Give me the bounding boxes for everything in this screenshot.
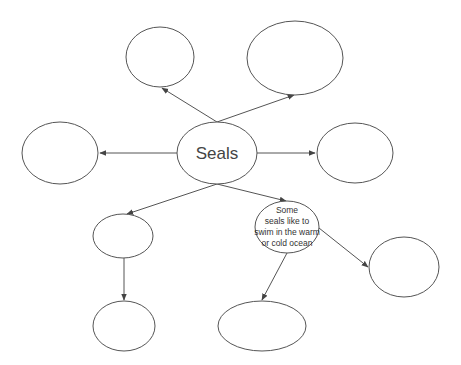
node-mid-left[interactable]	[93, 214, 153, 258]
node-far-right[interactable]	[369, 237, 439, 297]
node-left[interactable]	[22, 122, 98, 184]
node-swim-label-line-2: seals like to	[265, 216, 310, 226]
edge-seals-mid-left	[127, 184, 217, 214]
node-swim-label-line-4: or cold ocean	[261, 238, 312, 248]
edge-swim-bottom-mid	[262, 253, 287, 300]
node-right[interactable]	[317, 123, 393, 183]
edge-seals-swim	[217, 184, 286, 201]
edge-seals-top-right	[217, 95, 294, 122]
edges	[100, 88, 368, 300]
node-seals-label: Seals	[196, 144, 239, 163]
edge-seals-top-left	[162, 88, 217, 122]
edge-swim-far-right	[319, 228, 368, 267]
node-swim-label-line-1: Some	[276, 205, 298, 215]
node-top-right[interactable]	[247, 21, 343, 95]
nodes	[22, 21, 439, 351]
node-swim-label-line-3: swim in the warm	[254, 227, 320, 237]
node-bottom-mid[interactable]	[218, 301, 306, 351]
concept-map-canvas: Seals Some seals like to swim in the war…	[0, 0, 461, 365]
node-bottom-left[interactable]	[93, 301, 155, 351]
node-top-left[interactable]	[126, 27, 194, 87]
